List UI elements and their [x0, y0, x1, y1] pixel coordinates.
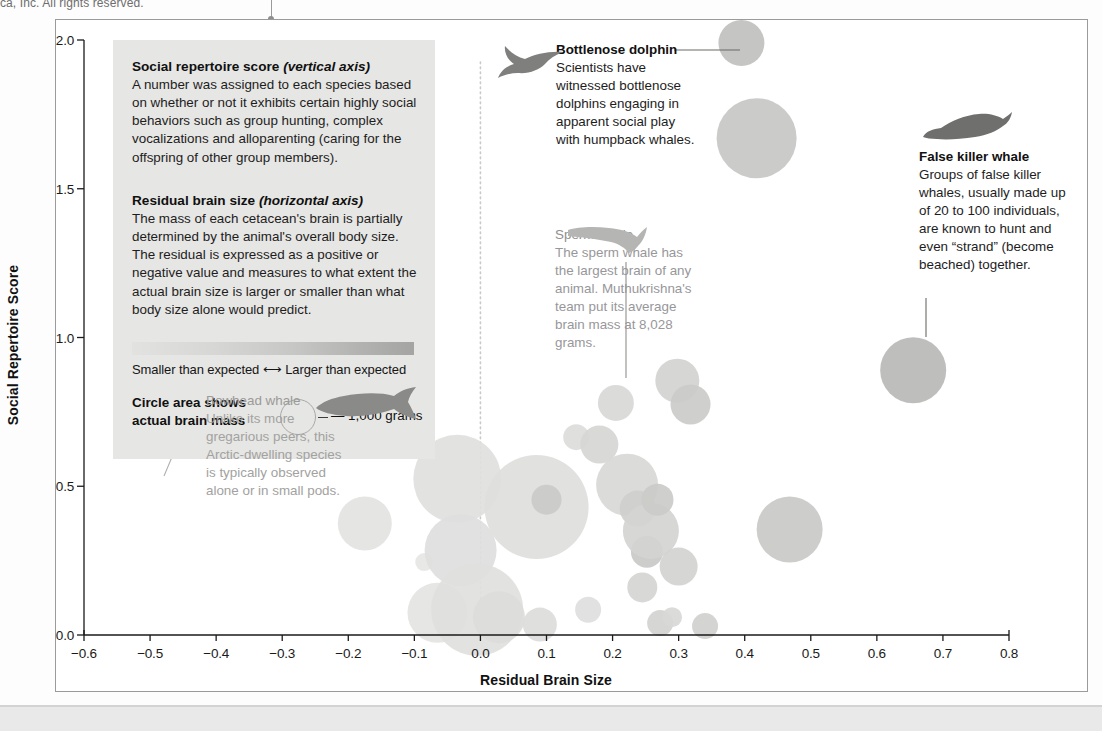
annotation-sperm-body: The sperm whale has the largest brain of…	[555, 244, 705, 352]
legend-block-social-score: Social repertoire score (vertical axis) …	[132, 58, 422, 167]
x-tick-label: −0.6	[71, 646, 97, 661]
sperm-whale-silhouette-icon	[567, 224, 649, 254]
annotation-false-killer-whale: False killer whale Groups of false kille…	[919, 148, 1079, 274]
bowhead-whale-silhouette-icon	[314, 386, 418, 426]
x-tick-label: 0.1	[537, 646, 555, 661]
color-gradient-caption: Smaller than expected ⟷ Larger than expe…	[132, 362, 422, 377]
annotation-bottlenose-title: Bottlenose dolphin	[556, 41, 696, 59]
legend-heading-residual: Residual brain size (horizontal axis)	[132, 192, 422, 210]
false-killer-whale-silhouette-icon	[921, 110, 1013, 146]
annotation-bottlenose-dolphin: Bottlenose dolphin Scientists have witne…	[556, 41, 696, 149]
x-tick-label: −0.4	[203, 646, 229, 661]
x-tick-label: 0.0	[471, 646, 489, 661]
legend-heading-social: Social repertoire score (vertical axis)	[132, 58, 422, 76]
y-tick-label: 0.0	[40, 628, 74, 643]
legend-heading-residual-em: (horizontal axis)	[259, 193, 363, 208]
legend-body-residual: The mass of each cetacean's brain is par…	[132, 210, 422, 319]
annotation-false-killer-body: Groups of false killer whales, usually m…	[919, 166, 1079, 274]
x-tick-label: 0.2	[603, 646, 621, 661]
x-tick-label: −0.3	[269, 646, 295, 661]
y-axis-title: Social Repertoire Score	[5, 265, 21, 425]
x-tick-label: 0.5	[802, 646, 820, 661]
y-tick-label: 2.0	[40, 33, 74, 48]
y-tick-label: 1.0	[40, 330, 74, 345]
legend-heading-social-main: Social repertoire score	[132, 59, 279, 74]
x-tick-label: 0.8	[1000, 646, 1018, 661]
x-tick-label: 0.3	[670, 646, 688, 661]
legend-block-residual-size: Residual brain size (horizontal axis) Th…	[132, 192, 422, 319]
x-tick-label: −0.5	[137, 646, 163, 661]
color-gradient-bar	[132, 342, 414, 355]
x-tick-label: −0.1	[401, 646, 427, 661]
x-tick-label: 0.4	[736, 646, 754, 661]
figure-page: ca, Inc. All rights reserved. −0.6−0.5−0…	[0, 0, 1102, 731]
page-bottom-band	[0, 705, 1102, 731]
legend-heading-social-em: (vertical axis)	[283, 59, 370, 74]
y-tick-label: 0.5	[40, 479, 74, 494]
legend-body-social: A number was assigned to each species ba…	[132, 76, 422, 167]
y-tick-label: 1.5	[40, 181, 74, 196]
copyright-credit: ca, Inc. All rights reserved.	[0, 0, 270, 12]
legend-heading-residual-main: Residual brain size	[132, 193, 255, 208]
annotation-bottlenose-body: Scientists have witnessed bottlenose dol…	[556, 59, 696, 149]
annotation-false-killer-title: False killer whale	[919, 148, 1079, 166]
x-tick-label: 0.6	[868, 646, 886, 661]
x-tick-label: 0.7	[934, 646, 952, 661]
x-tick-label: −0.2	[335, 646, 361, 661]
x-axis-title: Residual Brain Size	[480, 672, 612, 688]
dolphin-silhouette-icon	[495, 40, 567, 80]
